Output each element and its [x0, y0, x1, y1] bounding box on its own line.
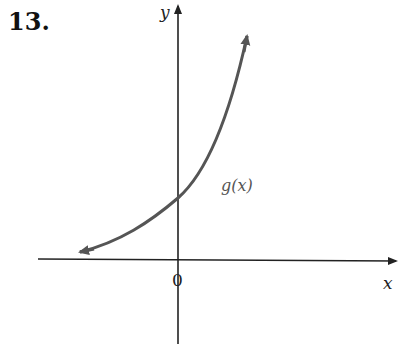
curve-arrow-left-icon	[80, 249, 94, 252]
curve-g	[80, 36, 247, 252]
curve-arrow-top-icon	[244, 36, 247, 52]
problem-number: 13.	[8, 7, 50, 36]
x-axis	[38, 259, 396, 261]
curve-label: g(x)	[221, 176, 253, 195]
y-axis-label: y	[159, 2, 170, 22]
x-axis-label: x	[383, 273, 393, 293]
graph: 13. y x 0 g(x)	[0, 0, 402, 344]
origin-label: 0	[172, 270, 183, 290]
